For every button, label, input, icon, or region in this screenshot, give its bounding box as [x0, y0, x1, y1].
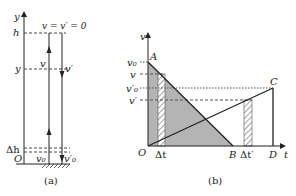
point-C: C [270, 76, 278, 87]
up-arrow-icon [47, 46, 52, 53]
diagram-canvas: y v = v′ = 0 h y v v′ Δh O v₀ v′₀ (a) v … [0, 0, 296, 196]
figure-a: y v = v′ = 0 h y v v′ Δh O v₀ v′₀ (a) [6, 11, 87, 186]
h-label: h [13, 27, 19, 38]
dt-strip [158, 74, 165, 146]
point-A: A [149, 51, 157, 62]
dtp-strip [244, 100, 252, 146]
v-axis-label: v [140, 31, 146, 42]
up-arrow-icon-low [47, 128, 52, 135]
tick-v: v [130, 69, 136, 80]
dt-label: Δt [155, 149, 166, 160]
caption-a: (a) [44, 175, 58, 186]
tick-v0: v₀ [127, 57, 137, 68]
origin-label-a: O [14, 153, 22, 164]
top-label: v = v′ = 0 [42, 21, 87, 31]
v0-label: v₀ [36, 153, 46, 164]
tick-v0p: v′₀ [126, 83, 138, 94]
tick-vp: v′ [129, 95, 138, 106]
t-axis-label: t [284, 149, 289, 160]
figure-b: v t O v₀ v v′₀ v′ A B C D Δt Δt′ (b) [126, 31, 289, 186]
v-up-label: v [40, 58, 46, 69]
ground-hatch [42, 164, 70, 168]
dtp-label: Δt′ [240, 149, 254, 160]
v0p-label: v′₀ [64, 153, 76, 164]
point-B: B [228, 149, 236, 160]
y-label: y [14, 63, 21, 74]
axis-label-y: y [13, 11, 20, 22]
down-arrow-icon [60, 71, 65, 78]
point-D: D [268, 149, 277, 160]
origin-label-b: O [138, 147, 146, 158]
v-down-label: v′ [65, 63, 74, 74]
caption-b: (b) [208, 175, 222, 186]
